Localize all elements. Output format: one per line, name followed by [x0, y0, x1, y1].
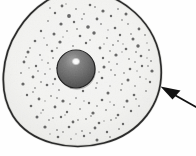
cytoplasm-granule	[129, 68, 132, 71]
cytoplasm-granule	[144, 34, 146, 36]
cytoplasm-granule	[122, 123, 124, 125]
cytoplasm-granule	[67, 14, 71, 18]
cytoplasm-granule	[134, 61, 136, 63]
cytoplasm-granule	[98, 71, 100, 73]
cytoplasm-granule	[96, 18, 99, 21]
cytoplasm-granule	[57, 136, 60, 139]
cell-diagram-figure: Animal cell cross-section illustration c…	[0, 0, 196, 156]
cytoplasm-granule	[83, 13, 85, 15]
cytoplasm-granule	[47, 62, 49, 64]
cytoplasm-granule	[44, 100, 46, 102]
cytoplasm-granule	[96, 139, 99, 142]
cytoplasm-granule	[37, 70, 39, 72]
cytoplasm-granule	[79, 35, 82, 38]
cytoplasm-granule	[68, 126, 71, 129]
cytoplasm-granule	[44, 73, 46, 75]
cytoplasm-granule	[90, 115, 92, 117]
cytoplasm-granule	[120, 89, 122, 91]
cytoplasm-granule	[34, 87, 36, 89]
cytoplasm-granule	[109, 85, 111, 87]
cytoplasm-granule	[85, 118, 87, 120]
cytoplasm-granule	[70, 138, 72, 140]
cytoplasm-granule	[138, 105, 140, 107]
nucleus-texture	[58, 51, 95, 88]
cytoplasm-granule	[102, 57, 104, 59]
cytoplasm-granule	[82, 90, 84, 92]
cytoplasm-granule	[54, 78, 56, 80]
cytoplasm-granule	[99, 47, 102, 50]
cytoplasm-granule	[83, 135, 85, 137]
cytoplasm-granule	[92, 31, 95, 34]
cytoplasm-granule	[109, 101, 111, 103]
cytoplasm-granule	[49, 133, 51, 135]
cytoplasm-granule	[52, 83, 54, 85]
cytoplasm-granule	[58, 89, 60, 91]
cytoplasm-granule	[117, 114, 120, 117]
cytoplasm-granule	[125, 13, 128, 16]
cytoplasm-granule	[32, 91, 34, 93]
cytoplasm-granule	[43, 125, 46, 128]
cytoplasm-granule	[48, 119, 50, 121]
cytoplasm-granule	[94, 127, 97, 130]
cytoplasm-granule	[73, 21, 75, 23]
cytoplasm-granule	[139, 76, 141, 78]
cytoplasm-granule	[109, 136, 111, 138]
cytoplasm-granule	[28, 67, 30, 69]
cytoplasm-granule	[136, 70, 138, 72]
cytoplasm-granule	[89, 39, 91, 41]
cytoplasm-granule	[149, 81, 151, 83]
cytoplasm-granule	[101, 77, 104, 80]
cytoplasm-granule	[36, 116, 39, 119]
cytoplasm-granule	[112, 44, 114, 46]
cytoplasm-granule	[69, 103, 71, 105]
cytoplasm-granule	[62, 131, 64, 133]
cytoplasm-granule	[140, 55, 143, 58]
cytoplasm-granule	[89, 4, 92, 7]
cytoplasm-granule	[127, 23, 129, 25]
cytoplasm-granule	[125, 48, 128, 51]
cytoplasm-granule	[52, 117, 54, 119]
cytoplasm-granule	[41, 59, 43, 61]
cytoplasm-granule	[133, 94, 136, 97]
cytoplasm-granule	[49, 7, 51, 9]
cytoplasm-granule	[25, 56, 27, 58]
cytoplasm-granule	[50, 95, 52, 97]
cytoplasm-granule	[72, 121, 75, 124]
cytoplasm-granule	[106, 37, 108, 39]
cytoplasm-granule	[132, 38, 135, 41]
cytoplasm-granule	[117, 8, 119, 10]
cytoplasm-granule	[115, 117, 117, 119]
cytoplasm-granule	[56, 47, 58, 49]
cytoplasm-granule	[110, 119, 112, 121]
cytoplasm-granule	[35, 65, 37, 67]
cytoplasm-granule	[40, 81, 42, 83]
cytoplasm-granule	[26, 94, 28, 96]
cytoplasm-granule	[96, 82, 98, 84]
cytoplasm-granule	[107, 92, 110, 95]
cytoplasm-granule	[66, 30, 68, 32]
cytoplasm-granule	[79, 108, 81, 110]
cytoplasm-granule	[122, 43, 124, 45]
cytoplasm-granule	[43, 37, 45, 39]
cytoplasm-granule	[62, 36, 64, 38]
cytoplasm-granule	[116, 63, 118, 65]
cytoplasm-granule	[135, 51, 137, 53]
cytoplasm-granule	[128, 58, 130, 60]
cytoplasm-granule	[76, 28, 78, 30]
cytoplasm-granule	[75, 97, 77, 99]
cytoplasm-granule	[56, 97, 58, 99]
cytoplasm-granule	[75, 133, 77, 135]
cytoplasm-granule	[127, 79, 130, 82]
nucleus-highlight	[71, 58, 80, 66]
cytoplasm-granule	[138, 28, 141, 31]
cytoplasm-granule	[32, 76, 35, 79]
cytoplasm-granule	[100, 23, 102, 25]
cytoplasm-granule	[61, 5, 64, 8]
cytoplasm-granule	[123, 106, 125, 108]
cytoplasm-granule	[27, 51, 30, 54]
cytoplasm-granule	[88, 102, 90, 104]
cytoplasm-granule	[103, 66, 106, 69]
cytoplasm-granule	[110, 69, 112, 71]
cytoplasm-granule	[77, 119, 79, 121]
cytoplasm-granule	[146, 57, 148, 59]
